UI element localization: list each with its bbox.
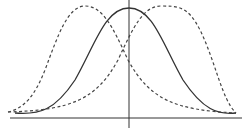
right-skewed-dashed-curve (8, 6, 236, 113)
distribution-diagram (0, 0, 246, 128)
left-skewed-dashed-curve (8, 6, 236, 113)
